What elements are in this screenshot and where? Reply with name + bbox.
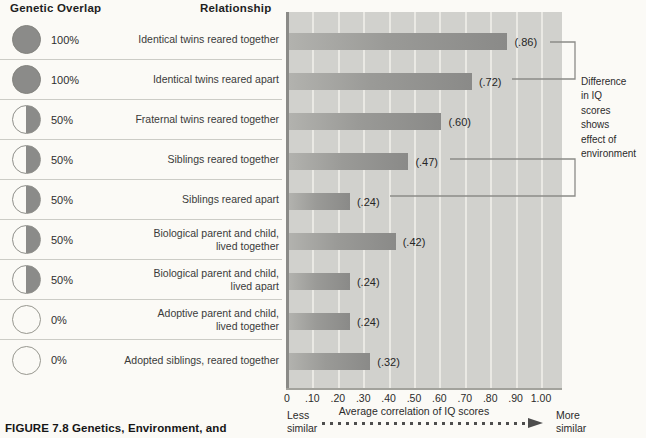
correlation-bar [289,113,441,130]
x-axis-tick-label: .70 [457,392,472,404]
table-row: 50%Biological parent and child, lived ap… [0,260,282,300]
genetic-overlap-half-circle-icon [12,265,41,294]
genetic-overlap-half-circle-icon [12,185,41,214]
bar-value-label: (.60) [448,116,471,128]
more-similar-label: More similar [556,409,586,434]
table-row: 0%Adoptive parent and child, lived toget… [0,300,282,340]
bar-chart-plot-area [286,12,562,390]
overlap-percent-label: 100% [51,34,93,46]
overlap-percent-label: 50% [51,234,93,246]
genetic-overlap-half-circle-icon [12,105,41,134]
x-axis-tick-label: .20 [330,392,345,404]
overlap-percent-label: 0% [51,314,93,326]
figure-genetics-environment-iq: Genetic Overlap Relationship 100%Identic… [0,0,646,438]
correlation-bar [289,73,472,90]
correlation-bar [289,233,396,250]
relationship-label: Adopted siblings, reared together [93,354,282,367]
gridline [414,12,416,388]
correlation-bar [289,33,507,50]
x-axis-tick-label: .50 [407,392,422,404]
correlation-bar [289,353,370,370]
correlation-bar [289,273,350,290]
bar-value-label: (.47) [415,156,438,168]
gridline [490,12,492,388]
bar-value-label: (.24) [357,316,380,328]
table-row: 50%Siblings reared apart [0,180,282,220]
genetic-overlap-empty-circle-icon [12,346,41,375]
x-axis-tick-label: .10 [305,392,320,404]
figure-caption: FIGURE 7.8 Genetics, Environment, and [5,422,227,434]
genetic-overlap-column-header: Genetic Overlap [10,2,101,14]
table-row: 100%Identical twins reared together [0,20,282,60]
table-row: 100%Identical twins reared apart [0,60,282,100]
genetic-overlap-empty-circle-icon [12,305,41,334]
x-axis-line [286,388,562,390]
gridline [439,12,441,388]
bar-value-label: (.72) [479,76,502,88]
correlation-bar [289,193,350,210]
genetic-overlap-full-circle-icon [12,65,41,94]
overlap-percent-label: 50% [51,154,93,166]
x-axis-tick-label: .30 [356,392,371,404]
overlap-percent-label: 50% [51,274,93,286]
x-axis-tick-label: .90 [508,392,523,404]
x-axis-tick-label: .60 [432,392,447,404]
gridline [465,12,467,388]
table-row: 50%Fraternal twins reared together [0,100,282,140]
bar-value-label: (.24) [357,196,380,208]
genetic-overlap-table: 100%Identical twins reared together100%I… [0,20,282,380]
relationship-label: Adoptive parent and child, lived togethe… [93,307,282,332]
relationship-column-header: Relationship [200,2,271,14]
x-axis-tick-label: .40 [381,392,396,404]
relationship-label: Identical twins reared together [93,33,282,46]
x-axis-tick-label: 1.00 [531,392,551,404]
table-row: 50%Biological parent and child, lived to… [0,220,282,260]
relationship-label: Fraternal twins reared together [93,113,282,126]
genetic-overlap-full-circle-icon [12,25,41,54]
gridline [541,12,543,388]
bar-value-label: (.32) [377,356,400,368]
arrowhead-icon [528,418,543,428]
gridline [516,12,518,388]
relationship-label: Biological parent and child, lived toget… [93,227,282,252]
correlation-bar [289,153,408,170]
x-axis-tick-label: 0 [284,392,290,404]
x-axis-label: Average correlation of IQ scores [287,405,541,417]
table-row: 0%Adopted siblings, reared together [0,340,282,380]
relationship-label: Siblings reared together [93,153,282,166]
relationship-label: Siblings reared apart [93,193,282,206]
bar-value-label: (.24) [357,276,380,288]
overlap-percent-label: 50% [51,194,93,206]
x-axis-tick-label: .80 [483,392,498,404]
table-row: 50%Siblings reared together [0,140,282,180]
relationship-label: Biological parent and child, lived apart [93,267,282,292]
gridline [389,12,391,388]
overlap-percent-label: 50% [51,114,93,126]
overlap-percent-label: 0% [51,354,93,366]
bar-value-label: (.42) [403,236,426,248]
genetic-overlap-half-circle-icon [12,225,41,254]
similarity-dotted-arrow [322,422,528,425]
genetic-overlap-half-circle-icon [12,145,41,174]
bar-value-label: (.86) [514,36,537,48]
environment-effect-annotation: Difference in IQ scores shows effect of … [581,75,645,161]
relationship-label: Identical twins reared apart [93,73,282,86]
correlation-bar [289,313,350,330]
overlap-percent-label: 100% [51,74,93,86]
less-similar-label: Less similar [287,409,317,434]
